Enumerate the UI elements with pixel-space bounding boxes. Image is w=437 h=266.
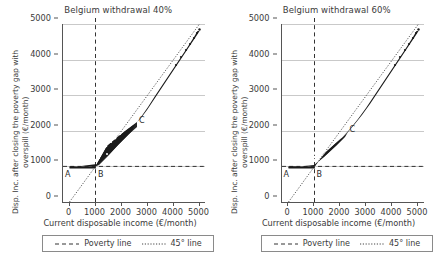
- legend-item-poverty-line: Poverty line: [273, 239, 350, 248]
- y-tick-label: 1000: [249, 155, 270, 165]
- y-axis-title-line1: Disp. Inc. after closing the poverty gap…: [11, 50, 20, 214]
- forty-five-degree-line: [288, 24, 418, 202]
- point-label-b: B: [98, 170, 104, 179]
- x-tick-label: 3000: [136, 207, 157, 217]
- legend-item-45-degree-line: 45° line: [141, 239, 202, 248]
- y-tick-label: 0: [264, 191, 269, 201]
- legend-item-45-degree-line: 45° line: [359, 239, 420, 248]
- x-tick-label: 0: [66, 207, 71, 217]
- legend-label: 45° line: [389, 239, 420, 248]
- y-tick-label: 2000: [249, 120, 270, 130]
- point-label-c: C: [350, 125, 356, 134]
- y-tick-label: 0: [46, 191, 51, 201]
- y-tick-mark: [273, 124, 277, 125]
- y-axis-title-line1: Disp. Inc. after closing the poverty gap…: [230, 50, 239, 214]
- y-tick-label: 1000: [30, 155, 51, 165]
- legend-label: Poverty line: [84, 239, 131, 248]
- plot-area: A B C: [62, 24, 205, 203]
- y-tick-mark: [54, 124, 58, 125]
- legend: Poverty line 45° line: [261, 235, 433, 252]
- x-tick-label: 0: [284, 207, 289, 217]
- x-tick-label: 1000: [303, 207, 324, 217]
- y-axis-ticks: 0 1000 2000 3000 4000 5000: [241, 18, 273, 214]
- y-axis-ticks: 0 1000 2000 3000 4000 5000: [22, 18, 54, 214]
- dashed-line-icon: [273, 240, 299, 248]
- y-tick-mark: [54, 160, 58, 161]
- figure-two-panel-scatter: Belgium withdrawal 40% Disp. Inc. after …: [0, 0, 437, 266]
- x-tick-label: 4000: [162, 207, 183, 217]
- y-tick-mark: [273, 196, 277, 197]
- y-tick-label: 3000: [249, 84, 270, 94]
- legend-label: Poverty line: [303, 239, 350, 248]
- x-tick-label: 4000: [381, 207, 402, 217]
- legend: Poverty line 45° line: [42, 235, 214, 252]
- x-tick-label: 2000: [110, 207, 131, 217]
- y-tick-mark: [273, 89, 277, 90]
- x-tick-label: 1000: [84, 207, 105, 217]
- x-tick-label: 2000: [329, 207, 350, 217]
- x-axis-title: Current disposable income (€/month): [30, 218, 210, 228]
- scatter-canvas: [282, 24, 424, 202]
- scatter-cloud: [70, 31, 200, 169]
- y-tick-mark: [273, 160, 277, 161]
- y-tick-mark: [54, 53, 58, 54]
- scatter-canvas: [63, 24, 205, 202]
- dotted-line-icon: [141, 240, 167, 248]
- y-tick-label: 2000: [30, 120, 51, 130]
- y-tick-label: 5000: [30, 13, 51, 23]
- point-label-b: B: [317, 170, 323, 179]
- x-tick-label: 3000: [355, 207, 376, 217]
- y-tick-mark: [54, 89, 58, 90]
- plot-area: A B C: [281, 24, 424, 203]
- y-tick-label: 4000: [249, 49, 270, 59]
- y-tick-mark: [273, 18, 277, 19]
- x-tick-label: 5000: [188, 207, 209, 217]
- forty-five-degree-line: [70, 24, 200, 202]
- panel-withdrawal-60: Belgium withdrawal 60% Disp. Inc. after …: [219, 0, 437, 266]
- dashed-line-icon: [54, 240, 80, 248]
- dotted-line-icon: [359, 240, 385, 248]
- legend-label: 45° line: [171, 239, 202, 248]
- legend-item-poverty-line: Poverty line: [54, 239, 131, 248]
- y-axis-title: Disp. Inc. after closing the poverty gap…: [2, 18, 24, 214]
- point-label-c: C: [139, 116, 145, 125]
- x-axis-title: Current disposable income (€/month): [249, 218, 429, 228]
- point-label-a: A: [65, 170, 70, 179]
- y-tick-mark: [273, 53, 277, 54]
- panel-withdrawal-40: Belgium withdrawal 40% Disp. Inc. after …: [0, 0, 219, 266]
- y-tick-label: 3000: [30, 84, 51, 94]
- y-axis-title: Disp. Inc. after closing the poverty gap…: [221, 18, 243, 214]
- y-tick-label: 5000: [249, 13, 270, 23]
- scatter-cloud: [288, 31, 418, 168]
- point-label-a: A: [284, 170, 289, 179]
- x-tick-label: 5000: [407, 207, 428, 217]
- y-tick-mark: [54, 196, 58, 197]
- y-tick-label: 4000: [30, 49, 51, 59]
- y-tick-mark: [54, 18, 58, 19]
